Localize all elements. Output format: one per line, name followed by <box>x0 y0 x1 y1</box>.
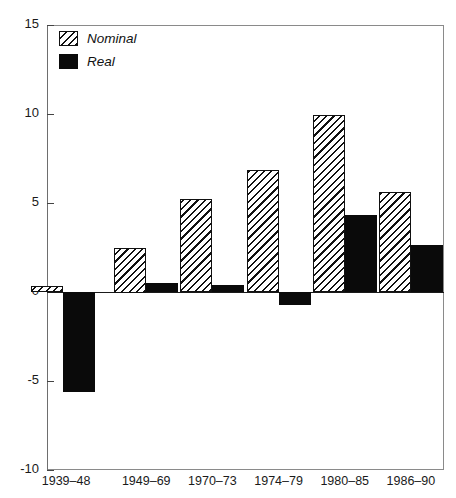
bar-nominal-1 <box>114 248 146 293</box>
legend-item-real: Real <box>59 51 137 72</box>
y-tick-label: 10 <box>0 105 39 120</box>
chart-legend: Nominal Real <box>59 28 137 74</box>
y-tick-mark <box>47 203 54 204</box>
x-tick-label: 1939–48 <box>26 474 106 488</box>
bar-real-5 <box>411 245 443 292</box>
y-tick-label: 5 <box>0 194 39 209</box>
bar-real-2 <box>212 285 244 292</box>
y-tick-mark <box>47 114 54 115</box>
y-axis <box>47 25 48 470</box>
zero-baseline <box>47 292 444 293</box>
bar-nominal-4 <box>313 115 345 292</box>
bar-real-4 <box>345 215 377 292</box>
bar-real-1 <box>146 283 178 292</box>
legend-item-label: Nominal <box>87 31 137 46</box>
bar-nominal-5 <box>379 192 411 292</box>
x-tick-label: 1986–90 <box>371 474 451 488</box>
legend-item-nominal: Nominal <box>59 28 137 49</box>
hatched-swatch-icon <box>59 31 78 46</box>
y-tick-mark <box>47 381 54 382</box>
legend-item-label: Real <box>87 54 115 69</box>
bar-nominal-0 <box>31 286 63 292</box>
y-tick-label: 15 <box>0 16 39 31</box>
y-tick-mark <box>47 25 54 26</box>
solid-black-swatch-icon <box>59 54 78 69</box>
bar-nominal-2 <box>180 199 212 292</box>
bar-real-0 <box>63 292 95 392</box>
y-tick-mark <box>47 470 54 471</box>
y-tick-label: -5 <box>0 372 39 387</box>
bar-chart: 151050-5-10 1939–481949–691970–731974–79… <box>0 0 456 498</box>
bar-nominal-3 <box>247 170 279 292</box>
bar-real-3 <box>279 292 311 305</box>
